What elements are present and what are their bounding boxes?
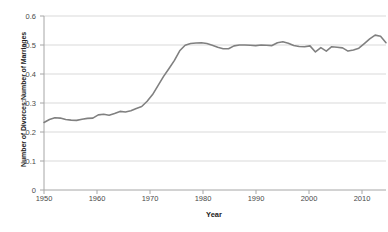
gridlines — [44, 16, 386, 161]
x-axis-ticks — [44, 190, 362, 194]
plot-area — [0, 0, 388, 232]
chart-container: Number of Divorces:Number of Marriages Y… — [0, 0, 388, 232]
axes — [40, 16, 386, 194]
y-axis-ticks — [40, 16, 44, 190]
data-series-line — [44, 35, 386, 122]
